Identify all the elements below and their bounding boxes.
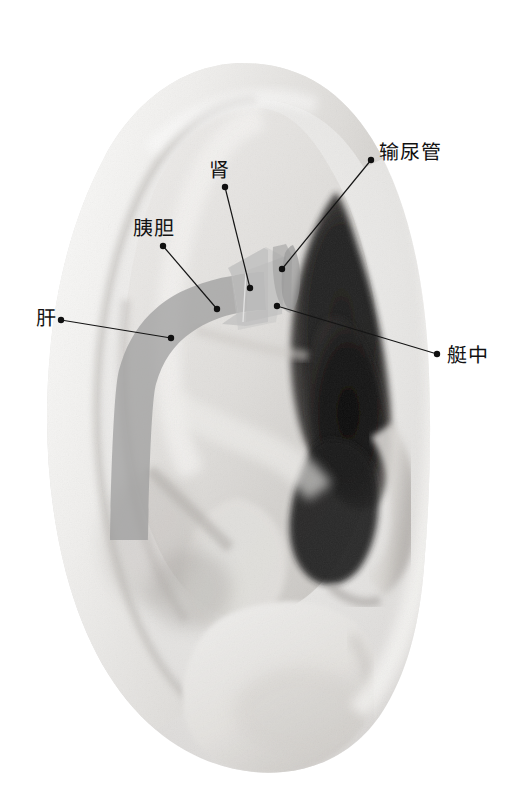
label-liver: 肝 <box>36 308 57 328</box>
label-pancreas-gallbladder: 胰胆 <box>133 218 175 238</box>
label-kidney: 肾 <box>209 160 230 180</box>
leader-dot-bladder-label <box>434 351 440 357</box>
ear-photograph <box>0 0 515 811</box>
label-ureter: 输尿管 <box>379 142 442 162</box>
label-bladder: 艇中 <box>447 345 489 365</box>
auricular-acupoint-figure: 输尿管 肾 胰胆 肝 艇中 <box>0 0 515 811</box>
